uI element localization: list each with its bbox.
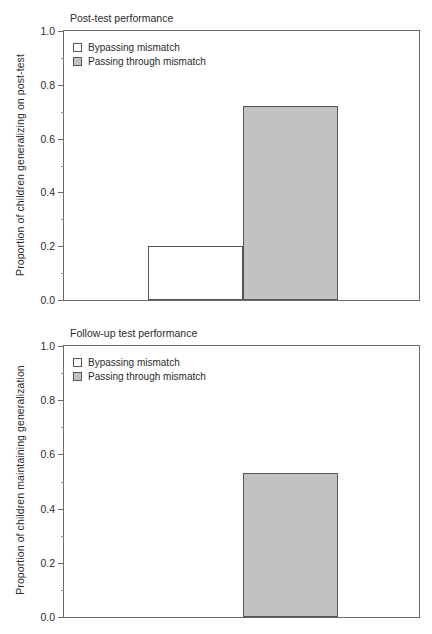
legend-item-passing-through: Passing through mismatch: [73, 371, 206, 382]
y-tick-minor: [61, 58, 65, 59]
y-tick-label: 1.0: [40, 340, 55, 352]
y-tick-minor: [61, 166, 65, 167]
y-tick-label: 0.8: [40, 394, 55, 406]
y-tick-major: [58, 617, 64, 618]
y-tick-minor: [61, 482, 65, 483]
y-tick-major: [58, 563, 64, 564]
y-tick-major: [58, 192, 64, 193]
plot-area: 0.00.20.40.60.81.0 Bypassing mismatch Pa…: [63, 345, 420, 618]
legend-item-bypassing: Bypassing mismatch: [73, 357, 206, 368]
y-tick-minor: [61, 427, 65, 428]
chart-panel-follow-up: Proportion of children maintaining gener…: [0, 316, 432, 634]
y-tick-label: 0.2: [40, 557, 55, 569]
y-tick-minor: [61, 112, 65, 113]
legend-label: Bypassing mismatch: [88, 357, 180, 368]
y-tick-minor: [61, 373, 65, 374]
y-tick-minor: [61, 536, 65, 537]
legend: Bypassing mismatch Passing through misma…: [73, 357, 206, 382]
y-tick-major: [58, 346, 64, 347]
y-tick-minor: [61, 219, 65, 220]
y-tick-major: [58, 454, 64, 455]
plot-area: 0.00.20.40.60.81.0 Bypassing mismatch Pa…: [63, 30, 420, 301]
y-tick-major: [58, 139, 64, 140]
y-axis-label: Proportion of children generalizing on p…: [14, 30, 32, 300]
y-tick-major: [58, 246, 64, 247]
y-tick-major: [58, 300, 64, 301]
legend-item-bypassing: Bypassing mismatch: [73, 42, 206, 53]
y-tick-label: 0.4: [40, 186, 55, 198]
bar-passing-through-mismatch: [243, 473, 338, 617]
y-tick-label: 0.6: [40, 133, 55, 145]
chart-panel-post-test: Proportion of children generalizing on p…: [0, 0, 432, 318]
legend-swatch-open-icon: [73, 43, 82, 52]
y-tick-label: 0.4: [40, 503, 55, 515]
y-tick-major: [58, 85, 64, 86]
y-tick-label: 0.0: [40, 611, 55, 623]
y-tick-label: 1.0: [40, 25, 55, 37]
bar-bypassing-mismatch: [148, 246, 243, 300]
legend-label: Bypassing mismatch: [88, 42, 180, 53]
legend-label: Passing through mismatch: [88, 56, 206, 67]
legend-item-passing-through: Passing through mismatch: [73, 56, 206, 67]
bar-passing-through-mismatch: [243, 106, 338, 300]
legend-label: Passing through mismatch: [88, 371, 206, 382]
chart-title: Post-test performance: [70, 12, 173, 24]
chart-title: Follow-up test performance: [70, 327, 197, 339]
y-axis-label: Proportion of children maintaining gener…: [14, 345, 32, 615]
y-tick-minor: [61, 273, 65, 274]
legend-swatch-open-icon: [73, 358, 82, 367]
figure-two-bar-charts: Proportion of children generalizing on p…: [0, 0, 432, 634]
y-tick-major: [58, 509, 64, 510]
y-tick-label: 0.0: [40, 294, 55, 306]
y-tick-label: 0.8: [40, 79, 55, 91]
y-tick-minor: [61, 590, 65, 591]
y-tick-label: 0.2: [40, 240, 55, 252]
y-tick-major: [58, 31, 64, 32]
legend-swatch-filled-icon: [73, 372, 82, 381]
y-tick-major: [58, 400, 64, 401]
legend-swatch-filled-icon: [73, 57, 82, 66]
y-tick-label: 0.6: [40, 448, 55, 460]
legend: Bypassing mismatch Passing through misma…: [73, 42, 206, 67]
